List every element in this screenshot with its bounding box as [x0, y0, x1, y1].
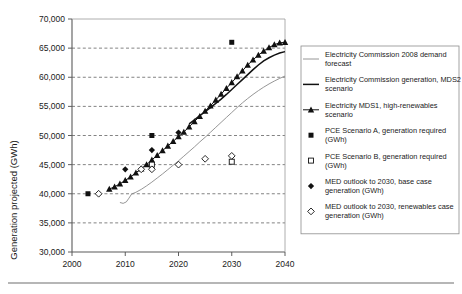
y-tick-label: 40,000 — [39, 189, 65, 199]
data-point-marker — [202, 155, 209, 162]
x-tick-label: 2040 — [276, 259, 295, 269]
y-tick-label: 55,000 — [39, 101, 65, 111]
chart-legend: Electricity Commission 2008 demandforeca… — [301, 46, 461, 234]
series-open-diamond — [95, 153, 235, 198]
x-tick-label: 2020 — [169, 259, 188, 269]
data-point-marker — [127, 173, 133, 179]
data-point-marker — [260, 48, 266, 54]
generation-projection-chart: 30,00035,00040,00045,00050,00055,00060,0… — [0, 0, 462, 294]
data-point-marker — [122, 177, 128, 183]
x-tick-label: 2000 — [63, 259, 82, 269]
x-tick-label: 2010 — [116, 259, 135, 269]
series-open-square — [149, 159, 234, 167]
data-point-marker — [229, 159, 234, 164]
y-tick-label: 60,000 — [39, 72, 65, 82]
data-point-marker — [85, 191, 90, 196]
y-tick-label: 30,000 — [39, 247, 65, 257]
data-point-marker — [309, 158, 314, 163]
y-tick-label: 35,000 — [39, 218, 65, 228]
data-point-marker — [149, 147, 155, 153]
data-point-marker — [122, 166, 128, 172]
x-axis-tick-labels: 20002010202020302040 — [63, 259, 295, 269]
data-point-marker — [282, 39, 288, 45]
y-axis-title: Generation projected (GWh) — [8, 140, 19, 259]
series-filled-triangle — [106, 39, 288, 192]
data-series-group — [85, 39, 288, 203]
y-axis-tick-labels: 30,00035,00040,00045,00050,00055,00060,0… — [39, 14, 65, 257]
data-point-marker — [309, 133, 314, 138]
y-tick-label: 70,000 — [39, 14, 65, 24]
series-filled-square — [85, 40, 234, 196]
y-tick-label: 65,000 — [39, 43, 65, 53]
data-point-marker — [95, 190, 102, 197]
data-point-marker — [228, 153, 235, 160]
demand-forecast-line — [120, 76, 285, 203]
x-tick-label: 2030 — [222, 259, 241, 269]
series-thin-line — [120, 76, 285, 203]
y-tick-label: 50,000 — [39, 131, 65, 141]
y-tick-label: 45,000 — [39, 160, 65, 170]
data-point-marker — [117, 180, 123, 186]
chart-figure: 30,00035,00040,00045,00050,00055,00060,0… — [0, 0, 462, 294]
data-point-marker — [229, 40, 234, 45]
data-point-marker — [255, 52, 261, 58]
data-point-marker — [149, 133, 154, 138]
data-point-marker — [106, 186, 112, 192]
data-point-marker — [133, 169, 139, 175]
